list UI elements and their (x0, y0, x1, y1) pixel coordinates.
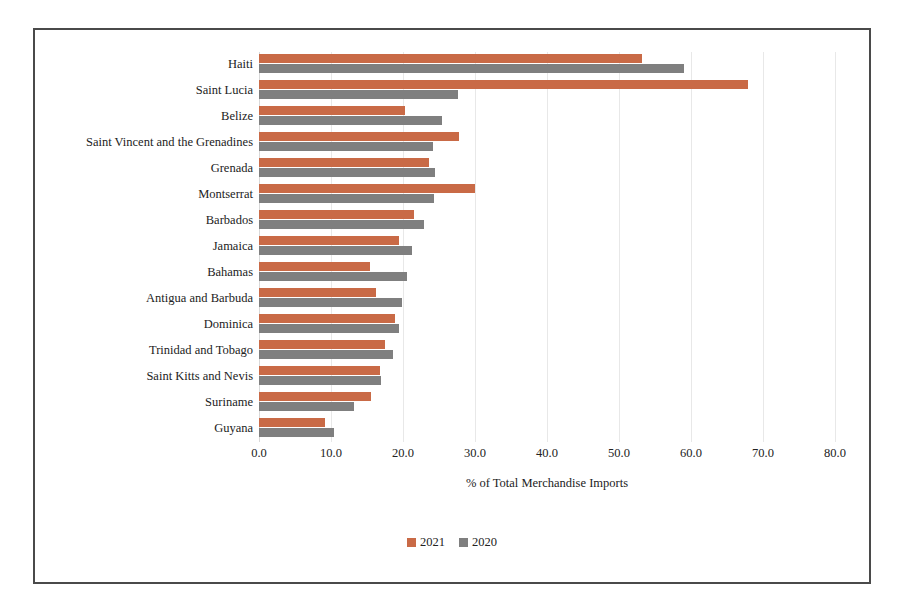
x-tick-label: 80.0 (824, 446, 846, 461)
chart-figure: HaitiSaint LuciaBelizeSaint Vincent and … (33, 28, 871, 584)
bar-2021[interactable] (259, 236, 399, 245)
category-label: Saint Kitts and Nevis (35, 370, 253, 383)
category-label: Grenada (35, 162, 253, 175)
bar-group (259, 104, 835, 130)
bar-2020[interactable] (259, 142, 433, 151)
x-axis-tick-labels: 0.010.020.030.040.050.060.070.080.0 (259, 446, 835, 466)
bar-2020[interactable] (259, 246, 412, 255)
bar-2020[interactable] (259, 428, 334, 437)
bar-group (259, 234, 835, 260)
category-label: Montserrat (35, 188, 253, 201)
category-label: Dominica (35, 318, 253, 331)
bar-group (259, 338, 835, 364)
bar-group (259, 52, 835, 78)
category-label: Suriname (35, 396, 253, 409)
bar-2020[interactable] (259, 350, 393, 359)
legend-label: 2021 (420, 535, 445, 550)
bar-2020[interactable] (259, 376, 381, 385)
bar-group (259, 208, 835, 234)
category-label: Antigua and Barbuda (35, 292, 253, 305)
x-tick-label: 40.0 (536, 446, 558, 461)
chart-canvas: HaitiSaint LuciaBelizeSaint Vincent and … (35, 30, 869, 582)
bar-2020[interactable] (259, 324, 399, 333)
bar-group (259, 390, 835, 416)
bar-2020[interactable] (259, 90, 458, 99)
bar-2020[interactable] (259, 298, 402, 307)
chart-legend: 20212020 (35, 535, 869, 550)
bar-2021[interactable] (259, 80, 748, 89)
bar-2021[interactable] (259, 340, 385, 349)
bar-2021[interactable] (259, 184, 475, 193)
gridline (835, 52, 836, 442)
y-axis-category-labels: HaitiSaint LuciaBelizeSaint Vincent and … (35, 52, 253, 442)
bar-group (259, 416, 835, 442)
bar-group (259, 312, 835, 338)
bar-2020[interactable] (259, 220, 424, 229)
x-tick-label: 10.0 (320, 446, 342, 461)
x-axis-title: % of Total Merchandise Imports (259, 476, 835, 491)
bar-2021[interactable] (259, 106, 405, 115)
bar-2020[interactable] (259, 194, 434, 203)
legend-item-2020[interactable]: 2020 (459, 535, 497, 550)
bar-group (259, 364, 835, 390)
category-label: Bahamas (35, 266, 253, 279)
bar-2021[interactable] (259, 158, 429, 167)
category-label: Trinidad and Tobago (35, 344, 253, 357)
bar-group (259, 182, 835, 208)
x-tick-label: 70.0 (752, 446, 774, 461)
bar-2021[interactable] (259, 132, 459, 141)
x-tick-label: 0.0 (251, 446, 267, 461)
bar-2020[interactable] (259, 116, 442, 125)
category-label: Saint Lucia (35, 84, 253, 97)
category-label: Haiti (35, 58, 253, 71)
plot-area (259, 52, 835, 442)
category-label: Barbados (35, 214, 253, 227)
legend-item-2021[interactable]: 2021 (407, 535, 445, 550)
legend-swatch-icon (407, 538, 416, 547)
legend-label: 2020 (472, 535, 497, 550)
category-label: Jamaica (35, 240, 253, 253)
bar-2020[interactable] (259, 168, 435, 177)
bar-2021[interactable] (259, 314, 395, 323)
legend-swatch-icon (459, 538, 468, 547)
bar-2021[interactable] (259, 366, 380, 375)
x-tick-label: 50.0 (608, 446, 630, 461)
bar-2021[interactable] (259, 210, 414, 219)
bar-2021[interactable] (259, 288, 376, 297)
x-tick-label: 20.0 (392, 446, 414, 461)
bar-group (259, 260, 835, 286)
bar-2021[interactable] (259, 418, 325, 427)
x-tick-label: 60.0 (680, 446, 702, 461)
bar-2020[interactable] (259, 64, 684, 73)
bar-group (259, 78, 835, 104)
bar-2021[interactable] (259, 392, 371, 401)
bar-2021[interactable] (259, 54, 642, 63)
bar-2021[interactable] (259, 262, 370, 271)
bar-group (259, 286, 835, 312)
bar-rows (259, 52, 835, 442)
bar-group (259, 156, 835, 182)
bar-2020[interactable] (259, 272, 407, 281)
category-label: Guyana (35, 422, 253, 435)
category-label: Saint Vincent and the Grenadines (35, 136, 253, 149)
bar-group (259, 130, 835, 156)
x-tick-label: 30.0 (464, 446, 486, 461)
bar-2020[interactable] (259, 402, 354, 411)
category-label: Belize (35, 110, 253, 123)
